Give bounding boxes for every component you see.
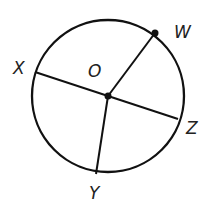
label-o: O [88,61,101,81]
center-dot [105,93,112,100]
label-x: X [12,58,25,78]
label-y: Y [89,183,101,203]
label-w: W [174,22,192,42]
label-z: Z [185,118,198,138]
circle-diagram: O W X Z Y [0,0,216,211]
radius-ow [108,33,155,96]
point-w-dot [152,30,159,37]
radius-oy [96,96,108,174]
